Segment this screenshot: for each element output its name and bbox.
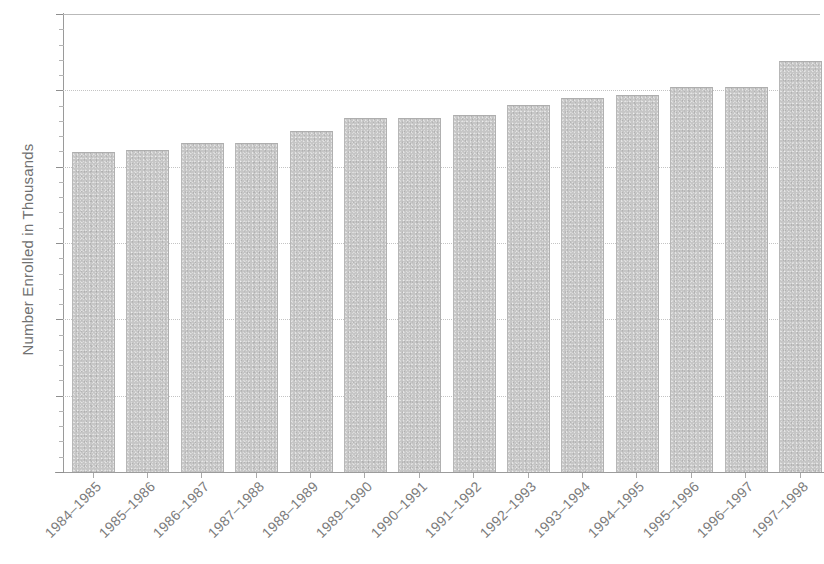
bar (670, 87, 713, 472)
x-tick-mark (745, 473, 746, 478)
bar-chart-figure: Number Enrolled in Thousands 0123456 198… (0, 0, 824, 564)
bar (561, 98, 604, 472)
bar (72, 152, 115, 472)
bar (779, 61, 822, 472)
plot-area (63, 14, 820, 472)
bar (453, 115, 496, 472)
bar (235, 143, 278, 472)
bar (398, 118, 441, 472)
bar (344, 118, 387, 472)
x-tick-mark (636, 473, 637, 478)
x-tick-mark (364, 473, 365, 478)
bar (616, 95, 659, 472)
x-tick-mark (473, 473, 474, 478)
y-axis-title: Number Enrolled in Thousands (19, 90, 36, 410)
bar (507, 105, 550, 472)
plot-top-rule (63, 14, 820, 15)
bar (126, 150, 169, 472)
bar (290, 131, 333, 472)
bar (181, 143, 224, 472)
bar (725, 87, 768, 472)
x-tick-mark (201, 473, 202, 478)
y-tick-mark (56, 472, 64, 473)
x-axis-line (55, 472, 824, 473)
